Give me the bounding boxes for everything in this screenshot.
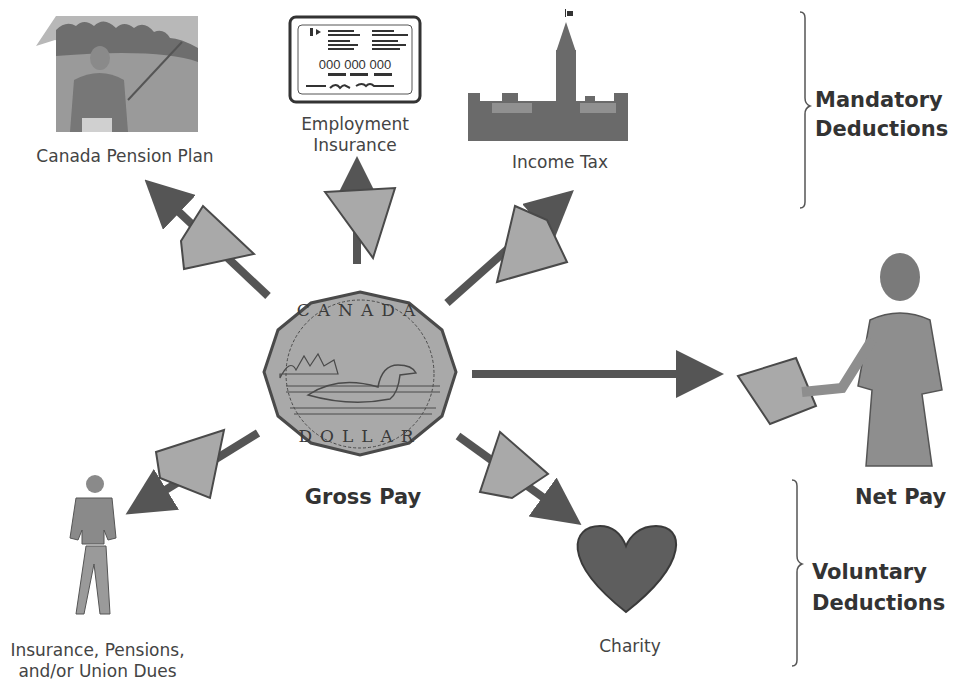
coin-bottom-text: DOLLAR — [284, 426, 436, 446]
heart-icon — [578, 526, 677, 612]
mandatory-label-line2: Deductions — [815, 116, 948, 142]
insurance-label-line1: Insurance, Pensions, — [0, 640, 195, 661]
mandatory-brace — [800, 12, 810, 208]
ei-label-line2: Insurance — [280, 135, 430, 156]
mandatory-label-line1: Mandatory — [815, 87, 943, 113]
income-tax-label: Income Tax — [490, 152, 630, 173]
net-pay-label: Net Pay — [855, 484, 946, 510]
ei-label-line1: Employment — [280, 114, 430, 135]
insurance-label-line2: and/or Union Dues — [0, 661, 195, 682]
golfer-icon — [36, 16, 198, 132]
walking-man-icon — [70, 475, 116, 614]
woman-net-pay-icon — [802, 253, 942, 466]
voluntary-label-line1: Voluntary — [812, 559, 927, 585]
cpp-label: Canada Pension Plan — [10, 146, 240, 167]
voluntary-label-line2: Deductions — [812, 590, 945, 616]
card-number: 000 000 000 — [319, 57, 391, 72]
parliament-building-icon — [468, 9, 628, 141]
voluntary-brace — [792, 480, 802, 666]
coin-top-text: CANADA — [284, 300, 436, 320]
charity-label: Charity — [570, 636, 690, 657]
gross-pay-label: Gross Pay — [298, 484, 428, 510]
